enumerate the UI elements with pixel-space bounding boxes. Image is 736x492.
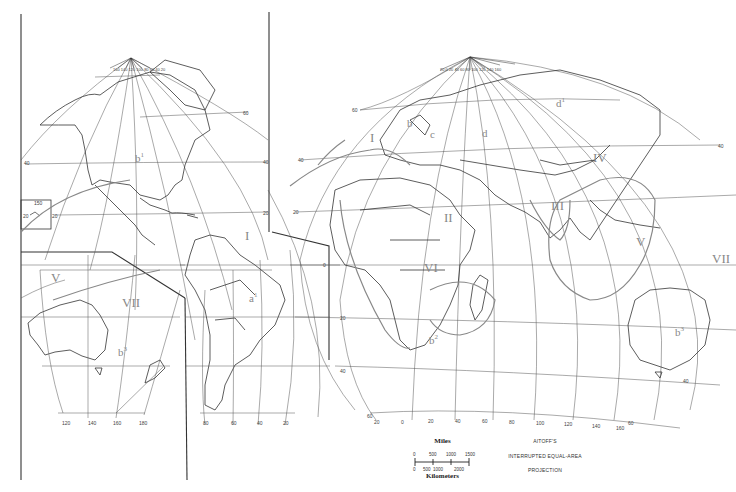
region-label-VII-pacific: VII [122, 295, 140, 311]
scale-legend: Miles [405, 437, 480, 445]
lat-label-40-left: 40 [24, 160, 30, 166]
subregion-label-c: c [430, 128, 435, 140]
subregion-label-b2: b2 [429, 333, 438, 346]
lat-label-s20: 20 [340, 315, 346, 321]
sa-graticule [180, 190, 340, 425]
scale-mile-tick-500: 500 [429, 452, 437, 457]
lon-label-eh-120e: 120 [564, 421, 572, 427]
region-label-VII-east: VII [712, 251, 730, 267]
subregion-label-b3-left: b3 [118, 345, 127, 358]
lon-label-120: 120 [62, 420, 70, 426]
lon-label-eh-140e: 140 [592, 423, 600, 429]
subregion-label-b1: b1 [135, 151, 144, 164]
aus-left-graticule [21, 255, 185, 418]
lat-label-s40: 40 [340, 368, 346, 374]
scale-mile-tick-1000: 1000 [446, 452, 456, 457]
inset-label-right: 20 [52, 213, 58, 219]
projection-title-line1: AITOFF'S [505, 438, 585, 444]
subregion-label-d1: d1 [556, 96, 565, 109]
region-label-I-europe: I [370, 130, 374, 146]
lon-label-eh-80e: 80 [509, 419, 515, 425]
region-label-IV: IV [593, 150, 607, 166]
subregion-label-b: b [407, 117, 413, 129]
subregion-label-b3-right: b3 [675, 325, 684, 338]
subregion-label-d: d [482, 127, 488, 139]
lon-label-140: 140 [88, 420, 96, 426]
lon-label-eh-160e: 160 [616, 425, 624, 431]
lon-label-180: 180 [139, 420, 147, 426]
lon-label-eh-100e: 100 [536, 420, 544, 426]
lon-label-eh-40e: 40 [455, 418, 461, 424]
lat-label-40-eh: 40 [298, 157, 304, 163]
lat-label-40-east: 40 [718, 143, 724, 149]
panel-dividers [21, 12, 329, 480]
scale-legend-km: Kilometers [405, 472, 480, 480]
australia-left-outline [28, 300, 165, 383]
lon-label-160: 160 [113, 420, 121, 426]
inset-label-top: 150 [34, 200, 42, 206]
lon-label-20w: 20 [283, 420, 289, 426]
eurasia-outline [380, 70, 660, 240]
pole-labels-na: 160 140 120 100 80 60 40 20 [113, 67, 165, 72]
lat-label-s40-east: 40 [683, 378, 689, 384]
scale-miles-label: Miles [405, 437, 480, 445]
scale-kilometers-label: Kilometers [405, 472, 480, 480]
subregion-label-a1: a1 [249, 291, 257, 304]
lon-label-40w: 40 [257, 420, 263, 426]
lon-label-60w: 60 [231, 420, 237, 426]
lon-label-eh-60e: 60 [482, 418, 488, 424]
lat-label-40-na-right: 40 [263, 159, 269, 165]
lat-label-60-eh: 60 [352, 107, 358, 113]
lon-label-80w: 80 [203, 420, 209, 426]
lon-label-eh-0: 0 [401, 419, 404, 425]
lon-label-eh-20e: 20 [428, 418, 434, 424]
pole-labels-eurasia: 20 0 20 40 60 80 100 120 140 160 [440, 67, 501, 72]
scale-bar [415, 458, 469, 466]
scale-mile-tick-1500: 1500 [465, 452, 475, 457]
projection-title-line3: PROJECTION [505, 467, 585, 473]
south-america-outline [185, 235, 285, 410]
lat-label-s60: 60 [367, 413, 373, 419]
lat-label-20-eh: 20 [293, 209, 299, 215]
region-label-II: II [444, 210, 453, 226]
scale-mile-tick-0: 0 [413, 452, 416, 457]
australia-right-outline [590, 200, 710, 378]
region-label-I-atlantic: I [245, 228, 249, 244]
lon-label-eh-20w: 20 [374, 419, 380, 425]
lat-label-s60-east: 60 [628, 420, 634, 426]
region-label-VI: VI [424, 260, 438, 276]
region-label-V-asia: V [636, 234, 645, 250]
lat-label-20-na: 20 [263, 210, 269, 216]
projection-title-line2: INTERRUPTED EQUAL-AREA [505, 453, 585, 459]
lat-label-60-na: 60 [243, 110, 249, 116]
region-label-V-west: V [51, 270, 60, 286]
north-america-outline [40, 60, 215, 245]
lat-label-eq: 0 [323, 262, 326, 268]
region-label-III: III [551, 198, 564, 214]
inset-label-left: 20 [23, 213, 29, 219]
